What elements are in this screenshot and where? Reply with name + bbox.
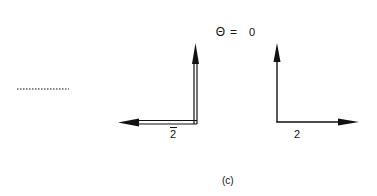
diagram-canvas <box>0 0 377 196</box>
arrow-up-icon <box>274 43 281 62</box>
left-double-arrow-figure <box>118 43 199 127</box>
figure-caption: (c) <box>222 176 234 186</box>
arrow-right-icon <box>338 119 359 126</box>
theta-equation: Θ=0 <box>209 14 255 38</box>
theta-symbol: Θ <box>216 25 225 39</box>
right-figure-label: 2 <box>294 129 300 140</box>
arrow-up-icon <box>192 43 199 64</box>
right-single-arrow-figure <box>274 43 360 126</box>
arrow-left-icon <box>118 119 139 127</box>
equals-sign: = <box>230 25 237 39</box>
theta-value: 0 <box>249 26 255 38</box>
left-figure-label: 2 <box>170 129 176 140</box>
